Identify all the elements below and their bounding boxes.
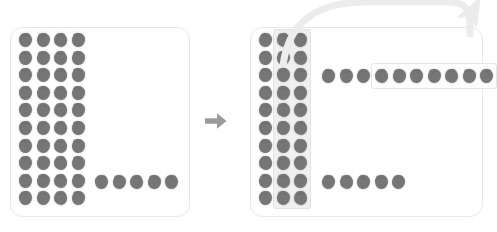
before-grid-dot <box>37 33 50 47</box>
before-grid-dot <box>72 68 85 82</box>
before-loose-dot <box>95 175 108 189</box>
after-grid-dot <box>259 139 272 153</box>
after-grouped-dot <box>445 69 458 83</box>
after-grouped-dot <box>428 69 441 83</box>
before-grid-dot <box>37 121 50 135</box>
after-grouped-dot <box>375 69 388 83</box>
after-grid-dot <box>277 121 290 135</box>
before-grid-dot <box>37 68 50 82</box>
before-grid-dot <box>72 86 85 100</box>
before-grid-dot <box>37 139 50 153</box>
before-grid-dot <box>37 174 50 188</box>
after-grid-dot <box>294 121 307 135</box>
before-grid-dot <box>72 51 85 65</box>
before-grid-dot <box>19 33 32 47</box>
after-grid-dot <box>259 156 272 170</box>
after-grid-dot <box>294 174 307 188</box>
after-grid-dot <box>277 156 290 170</box>
before-grid-dot <box>54 156 67 170</box>
before-grid-dot <box>54 51 67 65</box>
before-grid-dot <box>72 174 85 188</box>
after-grid-dot <box>277 174 290 188</box>
before-grid-dot <box>54 33 67 47</box>
after-grouped-dot <box>393 69 406 83</box>
before-loose-dot <box>148 175 161 189</box>
before-grid-dot <box>54 121 67 135</box>
before-grid-dot <box>19 51 32 65</box>
before-grid-dot <box>72 156 85 170</box>
after-grid-dot <box>294 86 307 100</box>
after-grid-dot <box>294 191 307 205</box>
before-grid-dot <box>37 86 50 100</box>
before-loose-dot <box>130 175 143 189</box>
after-bottom-dot <box>340 175 353 189</box>
before-grid-dot <box>37 156 50 170</box>
after-grouped-dot <box>463 69 476 83</box>
before-grid-dot <box>19 86 32 100</box>
after-bottom-dot <box>375 175 388 189</box>
before-grid-dot <box>72 191 85 205</box>
before-grid-dot <box>54 103 67 117</box>
after-bottom-dot <box>357 175 370 189</box>
before-grid-dot <box>54 174 67 188</box>
before-grid-dot <box>72 103 85 117</box>
after-ungrouped-dot <box>340 69 353 83</box>
after-grid-dot <box>294 139 307 153</box>
before-grid-dot <box>37 51 50 65</box>
before-grid-dot <box>72 33 85 47</box>
caption-text-left: —— — — —— —— —— — <box>6 0 130 3</box>
after-grid-dot <box>259 86 272 100</box>
before-loose-dot <box>165 175 178 189</box>
transition-arrow-icon <box>204 111 228 131</box>
before-grid-dot <box>19 139 32 153</box>
before-grid-dot <box>72 139 85 153</box>
before-loose-dot <box>113 175 126 189</box>
before-grid-dot <box>54 86 67 100</box>
before-grid-dot <box>54 191 67 205</box>
after-grid-dot <box>259 121 272 135</box>
after-grid-dot <box>277 68 290 82</box>
before-grid-dot <box>19 121 32 135</box>
before-grid-dot <box>19 174 32 188</box>
before-grid-dot <box>72 121 85 135</box>
before-grid-dot <box>54 68 67 82</box>
after-grid-dot <box>277 86 290 100</box>
after-grid-dot <box>277 139 290 153</box>
sweep-curved-arrow-icon <box>280 0 493 66</box>
after-grid-dot <box>259 51 272 65</box>
before-grid-dot <box>54 139 67 153</box>
